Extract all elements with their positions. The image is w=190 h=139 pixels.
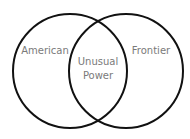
intersection-label-line1: Unusual: [78, 56, 118, 67]
venn-diagram: American Frontier Unusual Power: [0, 0, 190, 139]
left-circle-label: American: [21, 45, 69, 56]
right-circle-label: Frontier: [132, 45, 171, 56]
intersection-label-line2: Power: [83, 70, 114, 81]
